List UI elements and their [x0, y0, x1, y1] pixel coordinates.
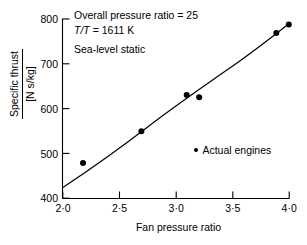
data-point	[273, 30, 279, 36]
y-tick-marks	[63, 19, 70, 198]
annotation-sea-level: Sea-level static	[74, 44, 198, 55]
legend-label-actual-engines: Actual engines	[202, 144, 271, 156]
data-point	[138, 128, 144, 134]
annotation-block: Overall pressure ratio = 25 T/T = 1611 K…	[74, 10, 198, 59]
annotation-turbine-temp: T/T = 1611 K	[74, 25, 198, 36]
x-tick-label-2-5: 2·5	[105, 202, 135, 214]
y-axis-label-numerator: Specific thrust	[8, 49, 20, 119]
data-point	[286, 22, 292, 28]
legend-marker-icon	[194, 148, 198, 152]
annotation-tit-symbol: T/T	[74, 24, 90, 36]
x-tick-label-4-0: 4·0	[274, 202, 304, 214]
data-point	[196, 94, 202, 100]
x-axis-label: Fan pressure ratio	[136, 221, 221, 233]
y-axis-label-wrap: Specific thrust [N s/kg]	[0, 14, 44, 154]
chart-container: 800 700 600 500 400 2·0 2·5 3·0 3·5 4·0 …	[0, 0, 307, 245]
y-axis-label-fraction: Specific thrust [N s/kg]	[8, 49, 36, 119]
annotation-tit-value: = 1611 K	[90, 24, 134, 36]
x-tick-label-2-0: 2·0	[48, 202, 78, 214]
x-tick-label-3-0: 3·0	[161, 202, 191, 214]
y-axis-label-denominator: [N s/kg]	[24, 49, 36, 119]
annotation-pressure-ratio: Overall pressure ratio = 25	[74, 10, 198, 21]
data-point	[184, 92, 190, 98]
data-point	[80, 160, 86, 166]
x-axis-label-wrap: Fan pressure ratio	[0, 221, 307, 233]
x-tick-label-3-5: 3·5	[218, 202, 248, 214]
legend: Actual engines	[194, 143, 271, 156]
x-tick-marks	[63, 192, 289, 199]
fraction-bar	[22, 49, 23, 119]
